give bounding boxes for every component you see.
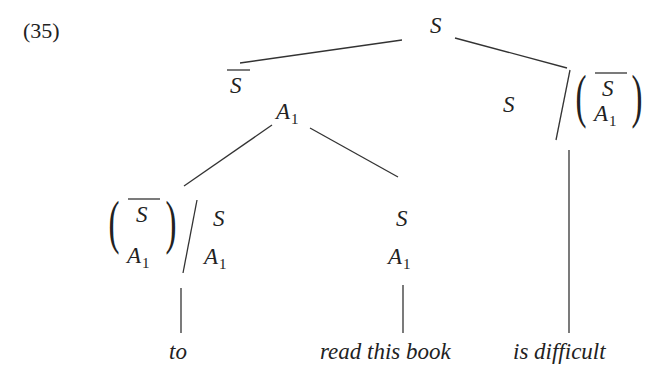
- functor-s-bar: S: [136, 203, 148, 226]
- subscript: 1: [219, 256, 227, 272]
- left-open-paren: (: [108, 192, 119, 252]
- left-close-paren: ): [165, 192, 176, 252]
- word-read-this-book: read this book: [320, 340, 451, 363]
- a-symbol: A: [127, 243, 141, 268]
- subscript: 1: [291, 111, 299, 127]
- a-symbol: A: [388, 244, 402, 269]
- middle-node-a1: A1: [388, 245, 411, 268]
- edge-root-left: [240, 40, 402, 63]
- a-symbol: A: [276, 99, 290, 124]
- edge-a1-left: [184, 125, 272, 186]
- functor-arg-s: S: [213, 207, 225, 230]
- subscript: 1: [609, 113, 617, 129]
- left-node-s-bar: S: [230, 74, 242, 97]
- edge-a1-right: [310, 128, 398, 177]
- root-node-s: S: [430, 14, 442, 37]
- word-to: to: [169, 340, 187, 363]
- right-close-paren: ): [631, 66, 642, 126]
- functor-a1: A1: [127, 244, 150, 267]
- tree-edges: [0, 0, 650, 373]
- right-slash: [556, 70, 570, 140]
- right-result-s: S: [503, 93, 515, 116]
- subscript: 1: [142, 255, 150, 271]
- right-arg-s-bar: S: [602, 77, 614, 100]
- functor-arg-a1: A1: [204, 245, 227, 268]
- right-open-paren: (: [575, 66, 586, 126]
- a-symbol: A: [204, 244, 218, 269]
- a-symbol: A: [594, 101, 608, 126]
- edge-root-right: [455, 38, 567, 68]
- subscript: 1: [403, 256, 411, 272]
- middle-node-s: S: [396, 207, 408, 230]
- word-is-difficult: is difficult: [513, 340, 606, 363]
- example-number: (35): [23, 20, 60, 42]
- left-node-a1: A1: [276, 100, 299, 123]
- left-slash: [183, 200, 197, 273]
- right-arg-a1: A1: [594, 102, 617, 125]
